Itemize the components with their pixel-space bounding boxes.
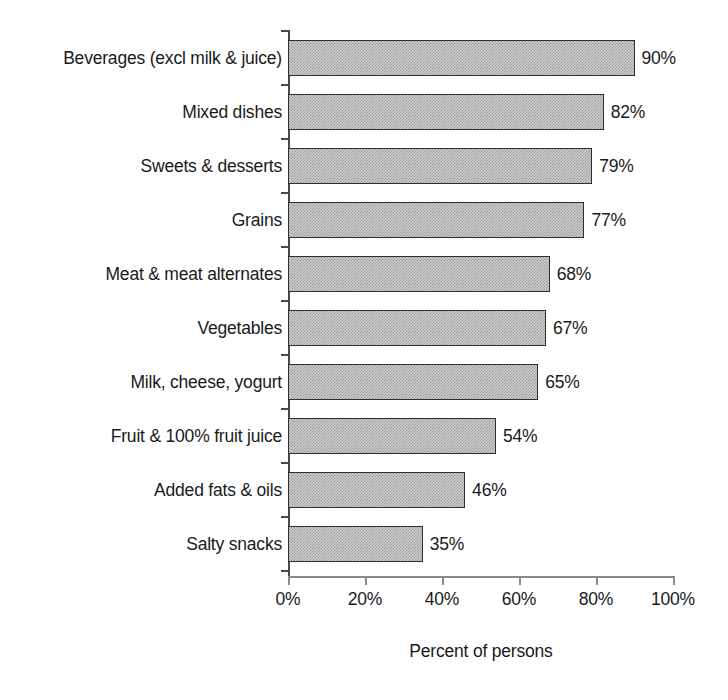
bar-value-label: 82%	[611, 94, 645, 130]
y-axis-tick	[281, 138, 288, 140]
category-label: Salty snacks	[0, 526, 282, 562]
category-label: Fruit & 100% fruit juice	[0, 418, 282, 454]
x-axis-tick	[519, 576, 521, 585]
x-axis-tick-label: 60%	[502, 589, 536, 610]
x-axis-line	[288, 576, 674, 578]
x-axis-tick-label: 0%	[276, 589, 301, 610]
bar[interactable]	[288, 202, 584, 238]
bar[interactable]	[288, 40, 635, 76]
bar-row: 35%	[288, 526, 673, 562]
bar[interactable]	[288, 256, 550, 292]
bar-row: 90%	[288, 40, 673, 76]
bar-row: 65%	[288, 364, 673, 400]
category-label: Milk, cheese, yogurt	[0, 364, 282, 400]
plot-area: 90%82%79%77%68%67%65%54%46%35%	[288, 30, 673, 576]
bar[interactable]	[288, 526, 423, 562]
category-label: Beverages (excl milk & juice)	[0, 40, 282, 76]
y-axis-tick	[281, 84, 288, 86]
bar-row: 46%	[288, 472, 673, 508]
x-axis-tick	[673, 576, 675, 585]
bar-row: 79%	[288, 148, 673, 184]
bar[interactable]	[288, 148, 592, 184]
y-axis-tick	[281, 30, 288, 32]
bar[interactable]	[288, 472, 465, 508]
category-label: Mixed dishes	[0, 94, 282, 130]
bar-value-label: 79%	[599, 148, 633, 184]
bar-value-label: 65%	[545, 364, 579, 400]
bar-row: 54%	[288, 418, 673, 454]
bar-row: 67%	[288, 310, 673, 346]
x-axis-title: Percent of persons	[288, 641, 674, 662]
bar-value-label: 67%	[553, 310, 587, 346]
x-axis-tick-label: 80%	[579, 589, 613, 610]
bar-row: 77%	[288, 202, 673, 238]
bar-value-label: 77%	[591, 202, 625, 238]
x-axis-tick-label: 100%	[651, 589, 695, 610]
y-axis-tick	[281, 246, 288, 248]
category-label: Sweets & desserts	[0, 148, 282, 184]
y-axis-tick	[281, 300, 288, 302]
bar-chart-figure: Beverages (excl milk & juice)Mixed dishe…	[0, 0, 728, 700]
y-axis-tick	[281, 462, 288, 464]
bar-value-label: 35%	[430, 526, 464, 562]
bar-value-label: 46%	[472, 472, 506, 508]
bar-value-label: 90%	[642, 40, 676, 76]
bar[interactable]	[288, 94, 604, 130]
category-label: Added fats & oils	[0, 472, 282, 508]
bar-row: 82%	[288, 94, 673, 130]
x-axis-tick	[442, 576, 444, 585]
bar-value-label: 68%	[557, 256, 591, 292]
bar[interactable]	[288, 310, 546, 346]
y-axis-tick	[281, 354, 288, 356]
bar[interactable]	[288, 364, 538, 400]
y-axis-tick	[281, 570, 288, 572]
x-axis-tick-label: 20%	[348, 589, 382, 610]
category-label: Vegetables	[0, 310, 282, 346]
x-axis-tick	[365, 576, 367, 585]
bar-value-label: 54%	[503, 418, 537, 454]
x-axis-tick	[288, 576, 290, 585]
y-axis-tick	[281, 408, 288, 410]
category-label: Meat & meat alternates	[0, 256, 282, 292]
y-axis-tick	[281, 192, 288, 194]
bar-row: 68%	[288, 256, 673, 292]
x-axis-tick-label: 40%	[425, 589, 459, 610]
y-axis-tick	[281, 516, 288, 518]
category-label: Grains	[0, 202, 282, 238]
bar[interactable]	[288, 418, 496, 454]
x-axis-tick	[596, 576, 598, 585]
